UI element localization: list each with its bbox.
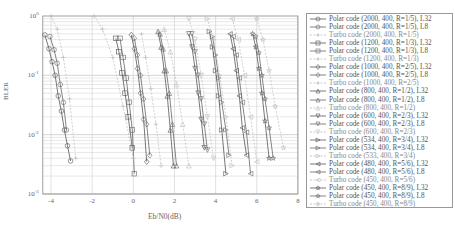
legend-entry: Polar code (2000, 400, R=1/5), L32 — [309, 15, 432, 23]
x-tick-label: 4 — [209, 197, 223, 205]
legend-label: Polar code (1200, 400, R=1/3), L8 — [329, 47, 428, 55]
triangle-right-marker-icon — [309, 144, 327, 152]
legend-entry: Polar code (1000, 400, R=2/5), L32 — [309, 63, 432, 71]
x-axis-label: Eb/N0(dB) — [148, 212, 181, 221]
triangle-left-marker-icon — [309, 160, 327, 168]
series-line — [162, 27, 191, 168]
legend-label: Polar code (1200, 400, R=1/3), L32 — [329, 39, 432, 47]
y-tick-label: 10-3 — [21, 189, 39, 198]
series-line — [205, 16, 234, 168]
triangle-down-marker-icon — [309, 120, 327, 128]
legend-entry: Polar code (2000, 400, R=1/5), L8 — [309, 23, 428, 31]
legend-label: Turbo code (1200, 400, R=1/3) — [329, 55, 419, 63]
triangle-down-marker-icon — [309, 128, 327, 136]
triangle-up-marker-icon — [309, 87, 327, 95]
x-tick-label: 8 — [291, 197, 305, 205]
legend-entry: Turbo code (450, 400, R=5/6) — [309, 176, 415, 184]
legend-label: Turbo code (1000, 400, R=2/5) — [329, 79, 419, 87]
star-marker-icon — [309, 192, 327, 200]
legend-entry: Polar code (480, 400, R=5/6), L32 — [309, 160, 428, 168]
x-tick-label: 0 — [126, 197, 140, 205]
legend-label: Turbo code (600, 400, R=2/3) — [329, 128, 415, 136]
legend-entry: Polar code (450, 400, R=8/9), L8 — [309, 192, 424, 200]
x-tick-label: 2 — [167, 197, 181, 205]
legend-label: Turbo code (800, 400, R=1/2) — [329, 104, 415, 112]
series-line — [156, 29, 176, 168]
star-marker-icon — [309, 200, 327, 208]
x-tick-label: -4 — [44, 197, 58, 205]
series-line — [92, 14, 136, 161]
legend-entry: Turbo code (1200, 400, R=1/3) — [309, 55, 419, 63]
plus-marker-icon — [309, 79, 327, 87]
legend-label: Polar code (2000, 400, R=1/5), L8 — [329, 23, 428, 31]
series-line — [250, 31, 271, 160]
triangle-down-marker-icon — [309, 112, 327, 120]
legend-label: Polar code (600, 400, R=2/3), L32 — [329, 112, 428, 120]
legend-entry: Polar code (480, 400, R=5/6), L8 — [309, 168, 424, 176]
x-tick-label: -2 — [85, 197, 99, 205]
legend-entry: Polar code (1200, 400, R=1/3), L8 — [309, 47, 428, 55]
triangle-left-marker-icon — [309, 176, 327, 184]
legend-entry: Polar code (1200, 400, R=1/3), L32 — [309, 39, 432, 47]
legend-label: Turbo code (450, 400, R=8/9) — [329, 200, 415, 208]
legend-entry: Turbo code (600, 400, R=2/3) — [309, 128, 415, 136]
series-line — [207, 29, 228, 176]
legend-label: Polar code (450, 400, R=8/9), L32 — [329, 184, 428, 192]
legend-entry: Turbo code (533, 400, R=3/4) — [309, 152, 415, 160]
x-tick-label: 6 — [250, 197, 264, 205]
legend-entry: Polar code (600, 400, R=2/3), L32 — [309, 112, 428, 120]
diamond-marker-icon — [309, 63, 327, 71]
legend-entry: Turbo code (2000, 400, R=1/5) — [309, 31, 419, 39]
star-marker-icon — [309, 184, 327, 192]
legend-label: Turbo code (533, 400, R=3/4) — [329, 152, 415, 160]
y-tick-label: 10-1 — [21, 70, 39, 79]
legend-label: Polar code (534, 400, R=3/4), L8 — [329, 144, 424, 152]
legend-entry: Polar code (534, 400, R=3/4), L8 — [309, 144, 424, 152]
series-line — [228, 32, 249, 158]
series-line — [210, 34, 231, 157]
legend-entry: Turbo code (1000, 400, R=2/5) — [309, 79, 419, 87]
legend-entry: Polar code (600, 400, R=2/3), L8 — [309, 120, 424, 128]
legend-label: Polar code (600, 400, R=2/3), L8 — [329, 120, 424, 128]
legend-entry: Turbo code (450, 400, R=8/9) — [309, 200, 415, 208]
square-marker-icon — [309, 39, 327, 47]
legend-label: Polar code (800, 400, R=1/2), L32 — [329, 87, 428, 95]
plus-marker-icon — [309, 55, 327, 63]
series-line — [158, 32, 179, 168]
legend-entry: Polar code (1000, 400, R=2/5), L8 — [309, 71, 428, 79]
circle-marker-icon — [309, 23, 327, 31]
legend-label: Polar code (2000, 400, R=1/5), L32 — [329, 15, 432, 23]
triangle-right-marker-icon — [309, 152, 327, 160]
legend-entry: Polar code (450, 400, R=8/9), L32 — [309, 184, 428, 192]
legend-entry: Polar code (534, 400, R=3/4), L32 — [309, 136, 428, 144]
legend-entry: Turbo code (800, 400, R=1/2) — [309, 104, 415, 112]
legend-entry: Polar code (800, 400, R=1/2), L32 — [309, 87, 428, 95]
series-line — [139, 32, 163, 168]
square-marker-icon — [309, 47, 327, 55]
series-layer — [43, 14, 286, 176]
legend-label: Polar code (534, 400, R=3/4), L32 — [329, 136, 428, 144]
triangle-up-marker-icon — [309, 96, 327, 104]
y-axis-label: BLER — [2, 82, 10, 100]
legend-label: Polar code (450, 400, R=8/9), L8 — [329, 192, 424, 200]
legend-label: Polar code (480, 400, R=5/6), L32 — [329, 160, 428, 168]
triangle-left-marker-icon — [309, 168, 327, 176]
legend-label: Polar code (480, 400, R=5/6), L8 — [329, 168, 424, 176]
y-tick-label: 100 — [21, 11, 39, 20]
diamond-marker-icon — [309, 71, 327, 79]
circle-marker-icon — [309, 15, 327, 23]
triangle-up-marker-icon — [309, 104, 327, 112]
triangle-right-marker-icon — [309, 136, 327, 144]
legend: Polar code (2000, 400, R=1/5), L32Polar … — [306, 13, 453, 208]
y-tick-label: 10-2 — [21, 130, 39, 139]
legend-entry: Polar code (800, 400, R=1/2), L8 — [309, 96, 424, 104]
legend-label: Polar code (1000, 400, R=2/5), L8 — [329, 71, 428, 79]
legend-label: Polar code (800, 400, R=1/2), L8 — [329, 96, 424, 104]
legend-label: Turbo code (2000, 400, R=1/5) — [329, 31, 419, 39]
plus-marker-icon — [309, 31, 327, 39]
series-line — [49, 14, 78, 161]
legend-label: Turbo code (450, 400, R=5/6) — [329, 176, 415, 184]
legend-label: Polar code (1000, 400, R=2/5), L32 — [329, 63, 432, 71]
